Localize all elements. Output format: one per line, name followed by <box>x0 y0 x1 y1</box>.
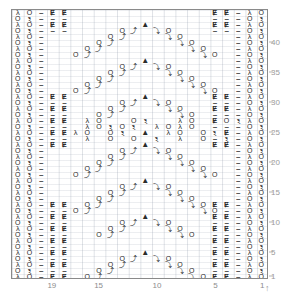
chart-plot-area: λO–ɆɆɆɆ–λOOⲝ––––––OⲝλO–ɆɆ▲ɆɆ–λOOⲝ–––O⤴⤵O… <box>11 9 268 279</box>
chart-cell-purl-glyph: – <box>221 28 233 34</box>
chart-cell-twisted-stitch-glyph: ⤵ <box>163 226 175 232</box>
chart-cell-twisted-stitch-glyph: ⤴ <box>82 52 94 58</box>
chart-cell-knit-tbl: Ɇ <box>221 274 233 279</box>
chart-cell-twisted-stitch-glyph: ⤵ <box>151 100 163 106</box>
chart-cell-twisted-stitch-glyph: ⤴ <box>82 172 94 178</box>
chart-cell-purl-glyph: – <box>35 274 47 280</box>
chart-cell-twisted-stitch-glyph: ⤵ <box>197 208 209 214</box>
chart-cell-empty <box>70 274 82 279</box>
chart-cell-purl: – <box>232 274 244 279</box>
chart-cell-yarn-over-glyph: O <box>197 274 209 280</box>
chart-cell-yarn-over-glyph: O <box>70 88 82 94</box>
chart-cell-yarn-over-glyph: O <box>82 274 94 280</box>
chart-cell-twisted-stitch-glyph: ⤵ <box>151 148 163 154</box>
knitting-chart-page: λO–ɆɆɆɆ–λOOⲝ––––––OⲝλO–ɆɆ▲ɆɆ–λOOⲝ–––O⤴⤵O… <box>0 0 291 300</box>
chart-grid: λO–ɆɆɆɆ–λOOⲝ––––––OⲝλO–ɆɆ▲ɆɆ–λOOⲝ–––O⤴⤵O… <box>12 10 267 278</box>
chart-cell-twisted-stitch-glyph: ⤵ <box>163 154 175 160</box>
chart-cell-knit-tbl-glyph: Ɇ <box>47 274 59 280</box>
chart-cell-ssk-glyph: λ <box>12 274 24 280</box>
chart-cell-twisted-stitch-glyph: ⤵ <box>151 184 163 190</box>
chart-cell-yarn-over-glyph: O <box>70 52 82 58</box>
row-tick-label: 35 <box>271 68 280 77</box>
chart-cell-ssk-glyph: λ <box>174 136 186 142</box>
column-axis: 19151051 <box>11 281 268 295</box>
chart-cell-twisted-stitch-glyph: ⤵ <box>174 160 186 166</box>
chart-cell-twisted-stitch-glyph: ⤵ <box>197 88 209 94</box>
chart-cell-yarn-over: O <box>24 274 36 279</box>
chart-cell-twisted-stitch-glyph: ⤵ <box>197 172 209 178</box>
direction-arrow-icon: ↑ <box>265 283 270 293</box>
chart-cell-twisted-stitch-glyph: ⤵ <box>174 232 186 238</box>
chart-cell-knit-tbl-glyph: Ɇ <box>209 142 221 148</box>
chart-cell-yarn-over-glyph: O <box>70 172 82 178</box>
chart-cell-empty <box>128 274 140 279</box>
chart-cell-purl-glyph: – <box>232 274 244 280</box>
chart-cell-k2tog-glyph: ⲝ <box>151 136 163 142</box>
chart-cell-twisted-stitch-glyph: ⤴ <box>116 262 128 268</box>
row-axis: 4035302520151051 <box>269 9 291 279</box>
chart-cell-twisted-stitch-glyph: ⤵ <box>186 202 198 208</box>
row-tick-label: 30 <box>271 98 280 107</box>
chart-cell-twisted-stitch-glyph: ⤵ <box>186 82 198 88</box>
chart-cell-twisted-stitch-glyph: ⤵ <box>151 220 163 226</box>
chart-cell-yarn-over-glyph: O <box>186 124 198 130</box>
chart-cell-empty <box>105 274 117 279</box>
chart-cell-twisted-stitch-glyph: ⤵ <box>151 28 163 34</box>
chart-cell-twisted-stitch-glyph: ⤴ <box>105 196 117 202</box>
chart-cell-yarn-over-glyph: O <box>93 124 105 130</box>
row-tick-label: 15 <box>271 188 280 197</box>
chart-cell-centered-double-decrease-glyph: ▲ <box>139 250 151 256</box>
chart-cell-yarn-over-glyph: O <box>70 208 82 214</box>
chart-cell-twisted-stitch-glyph: ⤴ <box>105 40 117 46</box>
chart-cell-purl: – <box>35 274 47 279</box>
chart-cell-twisted-stitch-glyph: ⤴ <box>93 46 105 52</box>
chart-cell-twisted-stitch-glyph: ⤴ <box>116 154 128 160</box>
chart-cell-twisted-stitch-glyph: ⤵ <box>163 70 175 76</box>
chart-cell-ssk-glyph: λ <box>163 130 175 136</box>
chart-cell-k2tog-glyph: ⲝ <box>128 124 140 130</box>
chart-cell-twisted-stitch-glyph: ⤴ <box>93 82 105 88</box>
column-tick-label: 15 <box>94 281 103 290</box>
chart-cell-twisted-stitch-glyph: ⤴ <box>105 160 117 166</box>
chart-cell-empty <box>163 274 175 279</box>
chart-cell-knit-tbl: Ɇ <box>58 274 70 279</box>
chart-cell-empty <box>139 274 151 279</box>
chart-cell-empty <box>116 274 128 279</box>
chart-cell-knit-tbl: Ɇ <box>209 274 221 279</box>
row-tick-label: 1 <box>271 272 275 281</box>
chart-cell-yarn-over-glyph: O <box>186 232 198 238</box>
chart-cell-centered-double-decrease-glyph: ▲ <box>139 214 151 220</box>
chart-cell-ssk: λ <box>244 274 256 279</box>
chart-cell-twisted-stitch-glyph: ⤵ <box>186 166 198 172</box>
chart-cell-twisted-stitch-glyph: ⤵ <box>174 40 186 46</box>
chart-cell-knit-tbl-glyph: Ɇ <box>58 274 70 280</box>
chart-cell-twisted-stitch-glyph: ⤴ <box>116 70 128 76</box>
row-tick-label: 10 <box>271 218 280 227</box>
chart-cell-twisted-stitch-glyph: ⤵ <box>163 190 175 196</box>
chart-cell-ssk-glyph: λ <box>244 274 256 280</box>
chart-cell-centered-double-decrease-glyph: ▲ <box>139 178 151 184</box>
chart-cell-purl-glyph: – <box>58 28 70 34</box>
chart-cell-twisted-stitch-glyph: ⤵ <box>186 46 198 52</box>
chart-cell-yarn-over-glyph: O <box>128 136 140 142</box>
chart-cell-twisted-stitch-glyph: ⤴ <box>105 232 117 238</box>
chart-cell-twisted-stitch-glyph: ⤴ <box>128 64 140 70</box>
chart-cell-twisted-stitch-glyph: ⤴ <box>116 190 128 196</box>
chart-cell-twisted-stitch-glyph: ⤵ <box>174 268 186 274</box>
column-tick-label: 5 <box>213 281 217 290</box>
row-tick-label: 25 <box>271 128 280 137</box>
chart-cell-k2tog-glyph: ⲝ <box>116 130 128 136</box>
chart-cell-twisted-stitch-glyph: ⤴ <box>128 148 140 154</box>
chart-cell-knit-tbl-glyph: Ɇ <box>221 274 233 280</box>
chart-cell-k2tog-glyph: ⲝ <box>139 118 151 124</box>
chart-cell-centered-double-decrease-glyph: ▲ <box>139 22 151 28</box>
chart-cell-ssk: λ <box>12 274 24 279</box>
chart-cell-twisted-stitch-glyph: ⤴ <box>82 88 94 94</box>
row-tick-label: 20 <box>271 158 280 167</box>
chart-cell-twisted-stitch-glyph: ⤴ <box>128 220 140 226</box>
chart-cell-yarn-over-glyph: O <box>93 232 105 238</box>
chart-cell-twisted-stitch-glyph: ⤵ <box>151 256 163 262</box>
chart-cell-twisted-stitch-glyph: ⤵ <box>197 52 209 58</box>
chart-cell-twisted-stitch-glyph: ⤵ <box>186 274 198 280</box>
chart-cell-empty <box>151 274 163 279</box>
